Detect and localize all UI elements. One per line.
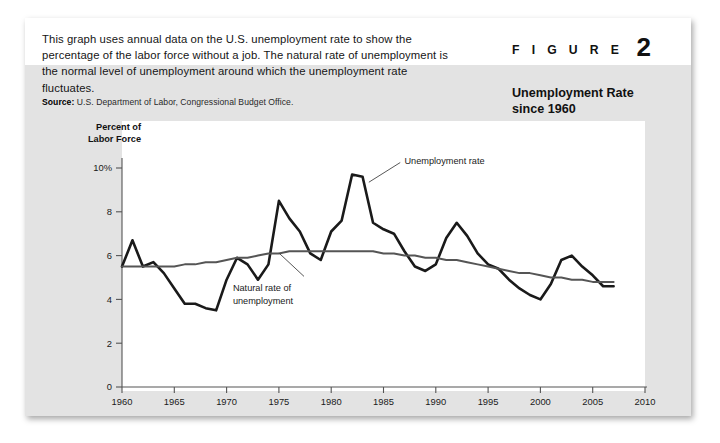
y-axis-title: Percent of Labor Force — [63, 122, 141, 145]
figure-word: F I G U R E — [512, 43, 623, 57]
figure-title-line-2: since 1960 — [512, 102, 692, 118]
figure-number: 2 — [636, 36, 650, 58]
figure-panel: This graph uses annual data on the U.S. … — [25, 18, 691, 416]
y-axis-title-line-1: Percent of — [63, 122, 141, 134]
figure-intro-text: This graph uses annual data on the U.S. … — [42, 31, 462, 96]
figure-title: Unemployment Rate since 1960 — [512, 86, 692, 117]
source-label: Source: — [42, 97, 74, 107]
y-axis-title-line-2: Labor Force — [63, 134, 141, 146]
page-background: This graph uses annual data on the U.S. … — [0, 0, 720, 443]
chart-plot-background — [122, 121, 645, 391]
figure-source-line: Source: U.S. Department of Labor, Congre… — [42, 97, 472, 107]
source-text: U.S. Department of Labor, Congressional … — [77, 97, 294, 107]
figure-tag: F I G U R E 2 — [512, 34, 651, 57]
figure-title-line-1: Unemployment Rate — [512, 86, 692, 102]
